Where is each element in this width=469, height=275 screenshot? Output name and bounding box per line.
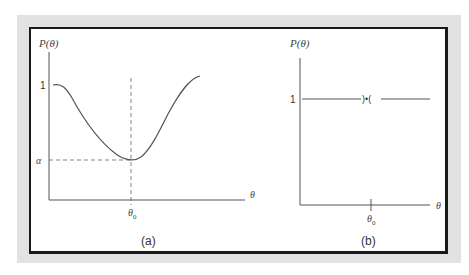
- panel-b-y-axis-label: P(θ): [289, 37, 310, 50]
- panel-b-x-axis-label: θ: [436, 200, 441, 211]
- panel-b-caption: (b): [361, 234, 376, 248]
- panel-a-caption: (a): [141, 234, 156, 248]
- panel-a-power-curve: [53, 76, 200, 160]
- panel-b-x-tick-theta0: θ0: [367, 213, 376, 227]
- panel-a-x-axis-label: θ: [250, 189, 255, 200]
- panel-b-discontinuity-marker: )•(: [362, 94, 371, 104]
- panel-b: P(θ) θ 1 )•( θ0 (b): [289, 37, 441, 248]
- panel-a-x-tick-theta0: θ0: [128, 207, 137, 221]
- panel-a: P(θ) θ 1 α θ0 (a): [36, 37, 255, 248]
- figure-canvas: P(θ) θ 1 α θ0 (a) P(θ) θ 1 )•( θ0 (b): [0, 0, 469, 275]
- panel-a-y-tick-one: 1: [40, 80, 46, 91]
- panel-a-y-axis-label: P(θ): [38, 37, 59, 50]
- panel-b-y-tick-one: 1: [290, 94, 296, 105]
- panel-a-y-tick-alpha: α: [36, 155, 42, 166]
